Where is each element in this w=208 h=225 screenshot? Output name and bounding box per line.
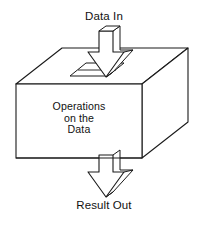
diagram-canvas: Data In Operations on the Data Result Ou… <box>0 0 208 225</box>
operations-box-label: Operations on the Data <box>16 101 142 136</box>
label-data-in: Data In <box>0 11 208 23</box>
label-result-out: Result Out <box>0 200 208 212</box>
operations-box-label-line-1: Operations <box>16 101 142 113</box>
operations-box-label-line-3: Data <box>16 124 142 136</box>
